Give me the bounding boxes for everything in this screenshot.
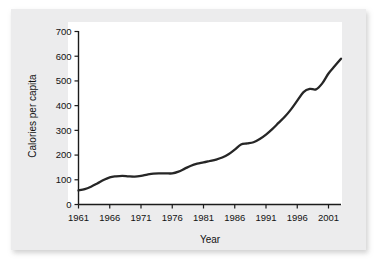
x-tick-label-1976: 1976	[162, 212, 183, 223]
y-tick-label-0: 0	[66, 199, 71, 210]
x-tick-label-1971: 1971	[130, 212, 151, 223]
y-axis: 0100200300400500600700	[56, 26, 79, 210]
x-tick-label-1981: 1981	[193, 212, 214, 223]
x-tick-label-1986: 1986	[224, 212, 245, 223]
y-tick-label-600: 600	[56, 51, 72, 62]
x-tick-label-1996: 1996	[287, 212, 308, 223]
y-tick-label-100: 100	[56, 174, 72, 185]
y-tick-label-200: 200	[56, 149, 72, 160]
x-tick-label-1966: 1966	[99, 212, 120, 223]
x-axis-tick-labels: 196119661971197619811986199119962001	[68, 212, 339, 223]
x-tick-label-1961: 1961	[68, 212, 89, 223]
y-tick-label-700: 700	[56, 26, 72, 37]
x-axis: 196119661971197619811986199119962001	[68, 205, 341, 223]
data-series-line	[79, 59, 342, 191]
x-tick-label-1991: 1991	[255, 212, 276, 223]
y-axis-tick-labels: 0100200300400500600700	[56, 26, 72, 210]
y-tick-label-300: 300	[56, 125, 72, 136]
y-tick-label-400: 400	[56, 100, 72, 111]
x-axis-title: Year	[200, 234, 221, 245]
line-chart: 0100200300400500600700 19611966197119761…	[0, 0, 377, 266]
y-axis-title: Calories per capita	[27, 74, 38, 158]
y-tick-label-500: 500	[56, 75, 72, 86]
chart-figure: 0100200300400500600700 19611966197119761…	[0, 0, 377, 266]
x-tick-label-2001: 2001	[318, 212, 339, 223]
